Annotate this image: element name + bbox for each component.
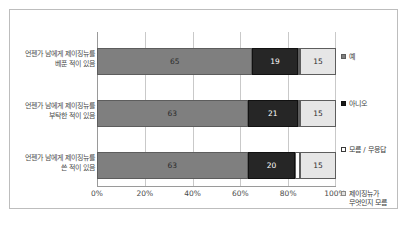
xtick-40: 40% <box>184 189 201 198</box>
legend-label-unfamiliar-line2: 무엇인지 모름 <box>349 199 387 208</box>
legend-item-no[interactable]: 아니오 <box>341 100 367 109</box>
bar-segment-unfamiliar-2[interactable]: 15 <box>300 152 336 179</box>
bar-segment-no-2[interactable]: 20 <box>248 152 296 179</box>
table-row[interactable]: 63 20 15 <box>97 152 336 179</box>
xtick-60: 60% <box>232 189 249 198</box>
category-label-2: 언젠가 남에게 제이징뉴를 쓴 적이 있음 <box>15 153 95 173</box>
bar-value-yes-2: 63 <box>168 162 178 170</box>
legend-label-unfamiliar-line1: 제이징뉴가 <box>349 190 379 198</box>
bar-segment-yes-2[interactable]: 63 <box>97 152 248 179</box>
bar-segment-unfamiliar-0[interactable]: 15 <box>300 48 336 75</box>
bar-value-unfamiliar-2: 15 <box>313 162 323 170</box>
chart-legend: 예 아니오 모름 / 무응답 제이징뉴가 무엇인지 모름 <box>341 32 399 202</box>
bar-segment-yes-0[interactable]: 65 <box>97 48 252 75</box>
category-label-1-line2: 부탁한 적이 있음 <box>15 111 95 121</box>
xtick-80: 80% <box>280 189 297 198</box>
bar-value-no-1: 21 <box>268 110 278 118</box>
category-label-0-line2: 베푼 적이 있음 <box>15 59 95 69</box>
legend-item-unfamiliar[interactable]: 제이징뉴가 무엇인지 모름 <box>341 190 387 208</box>
legend-swatch-no-icon <box>341 101 346 106</box>
category-label-1: 언젠가 남에게 제이징뉴를 부탁한 적이 있음 <box>15 101 95 121</box>
bar-segment-unfamiliar-1[interactable]: 15 <box>300 100 336 127</box>
category-label-2-line2: 쓴 적이 있음 <box>15 163 95 173</box>
legend-label-no: 아니오 <box>349 100 367 109</box>
xtick-0: 0% <box>91 189 103 198</box>
table-row[interactable]: 63 21 15 <box>97 100 336 127</box>
category-label-1-line1: 언젠가 남에게 제이징뉴를 <box>15 101 95 111</box>
category-label-0-line1: 언젠가 남에게 제이징뉴를 <box>15 49 95 59</box>
legend-item-yes[interactable]: 예 <box>341 53 355 62</box>
x-axis-tick-labels: 0% 20% 40% 60% 80% 100% <box>97 189 336 203</box>
chart-frame: 언젠가 남에게 제이징뉴를 베푼 적이 있음 언젠가 남에게 제이징뉴를 부탁한… <box>9 9 398 209</box>
bar-segment-no-1[interactable]: 21 <box>248 100 298 127</box>
legend-item-unknown[interactable]: 모름 / 무응답 <box>341 146 386 155</box>
legend-swatch-yes-icon <box>341 54 346 59</box>
x-axis-line <box>97 186 336 187</box>
category-label-2-line1: 언젠가 남에게 제이징뉴를 <box>15 153 95 163</box>
bar-segment-no-0[interactable]: 19 <box>252 48 297 75</box>
category-axis-labels: 언젠가 남에게 제이징뉴를 베푼 적이 있음 언젠가 남에게 제이징뉴를 부탁한… <box>10 32 95 187</box>
legend-label-unknown: 모름 / 무응답 <box>349 146 386 155</box>
bar-value-unfamiliar-1: 15 <box>313 110 323 118</box>
plot-area: 65 19 15 63 21 15 <box>97 32 336 187</box>
bar-segment-yes-1[interactable]: 63 <box>97 100 248 127</box>
bar-value-no-0: 19 <box>270 58 280 66</box>
legend-swatch-unknown-icon <box>341 147 346 152</box>
bar-value-no-2: 20 <box>267 162 277 170</box>
table-row[interactable]: 65 19 15 <box>97 48 336 75</box>
category-label-0: 언젠가 남에게 제이징뉴를 베푼 적이 있음 <box>15 49 95 69</box>
xtick-20: 20% <box>136 189 153 198</box>
legend-label-yes: 예 <box>349 53 355 62</box>
bar-value-yes-0: 65 <box>170 58 180 66</box>
bar-value-yes-1: 63 <box>168 110 178 118</box>
legend-swatch-unfamiliar-icon <box>341 191 346 196</box>
bar-value-unfamiliar-0: 15 <box>313 58 323 66</box>
